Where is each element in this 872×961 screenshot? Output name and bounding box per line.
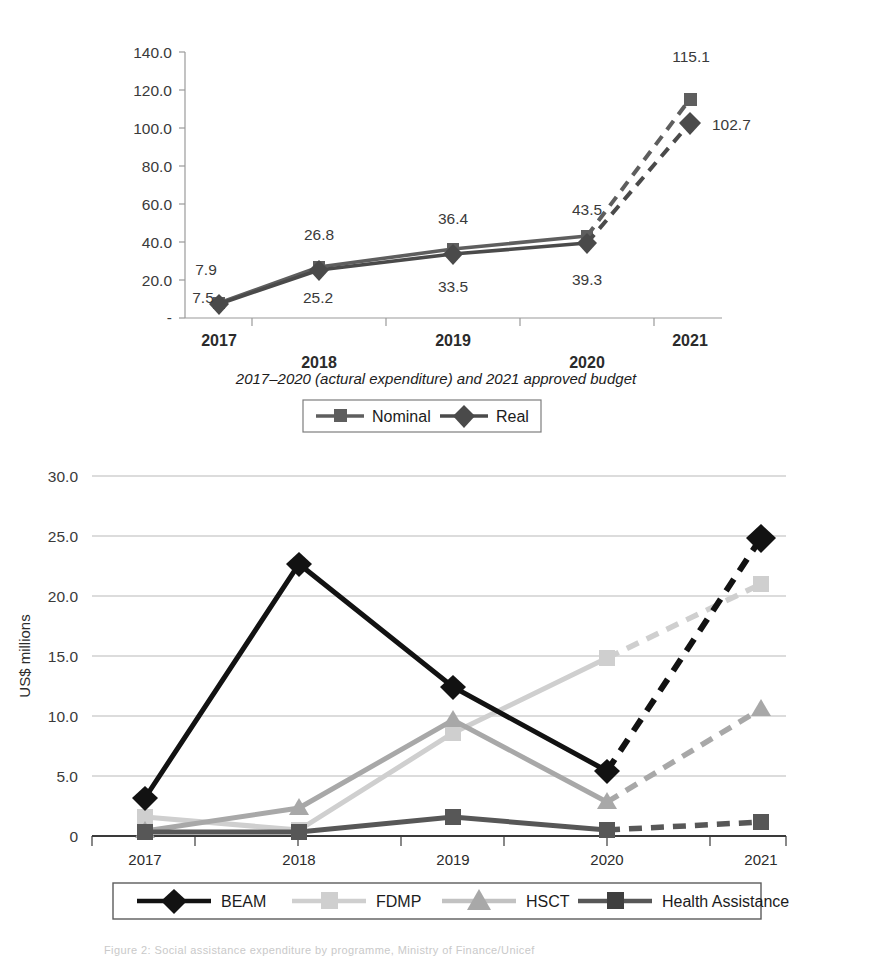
y-tick-label-100: 100.0 [133, 120, 172, 137]
data-label-real-2018: 25.2 [303, 289, 333, 306]
y-tick-label-5: 5.0 [56, 768, 78, 785]
marker-real-2018 [309, 260, 329, 281]
chart-caption-upper: 2017–2020 (actural expenditure) and 2021… [235, 370, 637, 387]
chart-expenditure-by-programme: 30.0 25.0 20.0 15.0 10.0 5.0 0 US$ milli… [0, 450, 872, 930]
x-tick-label-2021: 2021 [744, 851, 777, 868]
marker-hsct-2019 [443, 710, 463, 727]
marker-health-assistance-2020 [599, 822, 615, 838]
square-icon [607, 892, 624, 909]
y-tick-label-80: 80.0 [142, 158, 173, 175]
marker-health-assistance-2017 [137, 824, 153, 840]
marker-hsct-2021 [751, 699, 771, 716]
data-label-nominal-2018: 26.8 [304, 226, 334, 243]
y-tick-label-0: - [167, 309, 172, 326]
legend-label-fdmp: FDMP [376, 893, 421, 910]
marker-health-assistance-2018 [291, 824, 307, 840]
x-tick-label-2020: 2020 [569, 354, 605, 371]
y-tick-label-60: 60.0 [142, 196, 173, 213]
legend-label-health-assistance: Health Assistance [662, 893, 789, 910]
chart-total-expenditure-svg: - 20.0 40.0 60.0 80.0 100.0 120.0 140.0 … [0, 0, 872, 445]
data-label-nominal-2021: 115.1 [672, 48, 710, 65]
series-hsct-dashed [607, 709, 761, 802]
x-ticks-lower [92, 836, 786, 846]
y-tick-label-20: 20.0 [48, 588, 79, 605]
series-health-assistance-dashed [607, 822, 761, 830]
chart-expenditure-by-programme-svg: 30.0 25.0 20.0 15.0 10.0 5.0 0 US$ milli… [0, 450, 872, 930]
x-tick-label-2019: 2019 [435, 332, 471, 349]
x-ticks-upper [252, 318, 654, 326]
gridlines-lower [92, 476, 786, 776]
data-label-real-2020: 39.3 [572, 271, 602, 288]
data-label-real-2021: 102.7 [712, 116, 751, 133]
data-label-nominal-2017: 7.9 [195, 261, 217, 278]
marker-nominal-2021 [684, 93, 697, 106]
square-icon [321, 892, 338, 909]
data-label-nominal-2020: 43.5 [572, 201, 602, 218]
data-label-nominal-2019: 36.4 [438, 210, 469, 227]
marker-beam-2017 [132, 786, 158, 811]
marker-health-assistance-2019 [445, 809, 461, 825]
legend-upper: Nominal Real [303, 400, 541, 432]
legend-label-real: Real [496, 408, 529, 425]
x-tick-label-2018: 2018 [301, 354, 337, 371]
series-nominal [213, 93, 697, 309]
x-tick-label-2017: 2017 [128, 851, 161, 868]
x-tick-label-2021: 2021 [672, 332, 708, 349]
marker-real-2021 [679, 112, 701, 135]
x-tick-label-2018: 2018 [282, 851, 315, 868]
y-tick-label-10: 10.0 [48, 708, 79, 725]
x-tick-label-2019: 2019 [436, 851, 469, 868]
series-beam [132, 524, 776, 811]
marker-health-assistance-2021 [753, 814, 769, 830]
legend-label-beam: BEAM [221, 893, 266, 910]
footer-note: Figure 2: Social assistance expenditure … [104, 944, 535, 956]
y-tick-label-15: 15.0 [48, 648, 79, 665]
marker-fdmp-2021 [753, 576, 769, 592]
series-fdmp-dashed [607, 584, 761, 658]
series-beam-dashed [607, 538, 761, 771]
series-fdmp-solid [145, 658, 607, 830]
y-tick-label-40: 40.0 [142, 234, 173, 251]
x-tick-label-2017: 2017 [201, 332, 237, 349]
y-tick-label-25: 25.0 [48, 528, 79, 545]
series-fdmp [137, 576, 769, 838]
legend-item-health-assistance[interactable]: Health Assistance [578, 892, 789, 910]
series-real-dashed [587, 123, 690, 243]
marker-fdmp-2019 [445, 725, 461, 741]
square-icon [334, 409, 347, 422]
data-label-real-2017: 7.5 [192, 289, 214, 306]
y-tick-label-140: 140.0 [133, 44, 172, 61]
marker-beam-2020 [594, 759, 620, 784]
data-label-real-2019: 33.5 [438, 278, 468, 295]
y-tick-label-30: 30.0 [48, 468, 79, 485]
series-nominal-dashed [587, 99, 690, 236]
series-real-solid [219, 243, 587, 304]
x-tick-label-2020: 2020 [590, 851, 623, 868]
legend-label-nominal: Nominal [372, 408, 431, 425]
y-axis-title-lower: US$ millions [16, 614, 33, 697]
y-tick-label-120: 120.0 [133, 82, 172, 99]
chart-total-expenditure: - 20.0 40.0 60.0 80.0 100.0 120.0 140.0 … [0, 0, 872, 445]
legend-label-hsct: HSCT [526, 893, 570, 910]
y-tick-label-20: 20.0 [142, 272, 173, 289]
y-ticks-upper [179, 52, 185, 318]
marker-fdmp-2020 [599, 650, 615, 666]
y-tick-label-0: 0 [69, 828, 78, 845]
legend-lower: BEAM FDMP HSCT Health Assistance [113, 883, 789, 919]
